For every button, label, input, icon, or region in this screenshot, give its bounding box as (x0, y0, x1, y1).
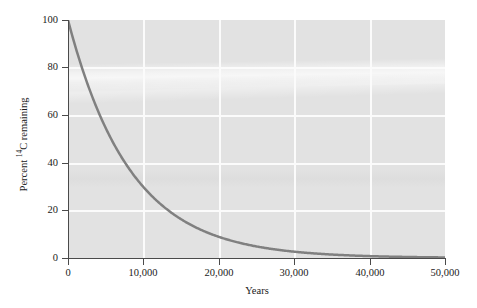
x-tick-20000 (219, 259, 220, 265)
chart-figure: 0 20 40 60 80 100 0 10,000 20,000 30,000… (0, 0, 477, 308)
y-tick-label-0: 0 (18, 253, 58, 264)
y-tick-20 (62, 210, 68, 211)
x-tick-label-50000: 50,000 (410, 268, 477, 279)
x-axis-title: Years (68, 285, 446, 296)
y-tick-80 (62, 67, 68, 68)
y-axis-title: Percent 14C remaining (18, 60, 29, 230)
y-axis-title-superscript: 14 (15, 150, 24, 158)
x-tick-10000 (143, 259, 144, 265)
x-tick-label-20000: 20,000 (184, 268, 254, 279)
x-tick-40000 (370, 259, 371, 265)
y-tick-100 (62, 20, 68, 21)
y-tick-60 (62, 115, 68, 116)
x-tick-label-40000: 40,000 (335, 268, 405, 279)
x-axis-line (68, 258, 446, 259)
x-tick-30000 (294, 259, 295, 265)
y-axis-line (68, 20, 69, 259)
x-tick-label-10000: 10,000 (108, 268, 178, 279)
y-tick-label-100: 100 (18, 15, 58, 26)
plot-area (68, 20, 445, 258)
y-axis-title-prefix: Percent (18, 157, 29, 191)
decay-curve-path (68, 20, 445, 257)
x-tick-label-0: 0 (33, 268, 103, 279)
y-tick-40 (62, 163, 68, 164)
x-tick-label-30000: 30,000 (259, 268, 329, 279)
y-axis-title-suffix: C remaining (18, 98, 29, 150)
x-tick-50000 (445, 259, 446, 265)
x-tick-0 (68, 259, 69, 265)
decay-curve-svg (68, 20, 445, 258)
